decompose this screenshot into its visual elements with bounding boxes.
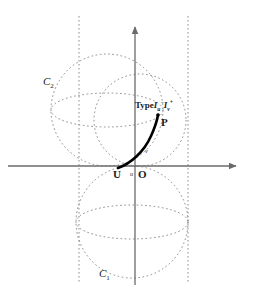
label-c1: C1 xyxy=(99,268,110,282)
label-type-annotation: TypeIu−Iv+ xyxy=(135,100,173,112)
label-small-v: v xyxy=(145,148,148,154)
circle-c1-lower xyxy=(76,166,188,278)
label-point-p: P xyxy=(161,117,168,128)
point-p-marker xyxy=(156,113,160,117)
label-point-o: O xyxy=(138,169,147,180)
type-one-curve xyxy=(118,115,158,168)
label-small-u: u xyxy=(130,171,133,177)
equator-arc-lower xyxy=(76,205,188,239)
type-symbol-two: Iv+ xyxy=(164,100,173,110)
label-c2: C2 xyxy=(43,76,54,90)
geometry-figure xyxy=(0,0,255,295)
type-symbol-one: Iu− xyxy=(154,100,164,110)
type-word: Type xyxy=(135,100,154,110)
label-point-u: U xyxy=(113,169,121,180)
